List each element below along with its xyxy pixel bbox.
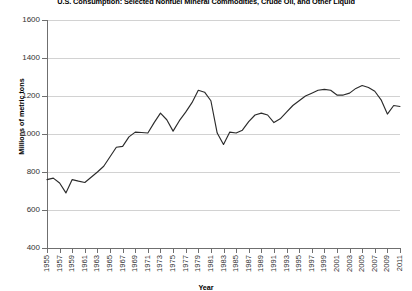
- y-axis-tick: [42, 172, 48, 173]
- x-axis-tick-label: 2003: [346, 255, 353, 272]
- consumption-line-series: [47, 20, 400, 248]
- y-axis-tick-label: 400: [6, 244, 40, 252]
- x-axis-tick-label: 1987: [245, 255, 252, 272]
- x-axis-tick-label: 1983: [220, 255, 227, 272]
- x-axis-tick-label: 1985: [232, 255, 239, 272]
- y-axis-tick: [42, 58, 48, 59]
- x-axis-tick-label: 1993: [283, 255, 290, 272]
- x-axis-tick: [47, 249, 48, 253]
- x-axis-tick-label: 1973: [156, 255, 163, 272]
- x-axis-tick-label: 2009: [383, 255, 390, 272]
- x-axis-tick: [173, 249, 174, 253]
- x-axis-tick-label: 2011: [396, 255, 403, 271]
- x-axis-tick: [350, 249, 351, 253]
- x-axis-tick-label: 1991: [270, 255, 277, 272]
- y-axis-tick: [42, 210, 48, 211]
- x-axis-tick-label: 1965: [106, 255, 113, 272]
- x-axis-tick-label: 1967: [119, 255, 126, 272]
- x-axis-tick-label: 2001: [333, 255, 340, 272]
- x-axis-tick: [97, 249, 98, 253]
- x-axis-tick: [375, 249, 376, 253]
- x-axis-tick: [362, 249, 363, 253]
- y-axis-tick-label: 600: [6, 206, 40, 214]
- x-axis-tick-label: 1989: [257, 255, 264, 272]
- x-axis-tick: [387, 249, 388, 253]
- x-axis-tick: [211, 249, 212, 253]
- x-axis-tick: [198, 249, 199, 253]
- x-axis-tick: [186, 249, 187, 253]
- x-axis-tick: [287, 249, 288, 253]
- x-axis-tick-label: 1963: [93, 255, 100, 272]
- x-axis-tick: [224, 249, 225, 253]
- x-axis-tick: [135, 249, 136, 253]
- x-axis-tick: [85, 249, 86, 253]
- x-axis-tick-label: 1979: [194, 255, 201, 272]
- x-axis-tick: [261, 249, 262, 253]
- chart-title: U.S. Consumption: Selected Nonfuel Miner…: [0, 0, 412, 6]
- x-axis-tick: [249, 249, 250, 253]
- x-axis-tick: [160, 249, 161, 253]
- x-axis-tick: [274, 249, 275, 253]
- x-axis-tick: [60, 249, 61, 253]
- y-axis-tick: [42, 134, 48, 135]
- chart-container: U.S. Consumption: Selected Nonfuel Miner…: [0, 0, 412, 291]
- plot-area: [47, 20, 400, 248]
- series-polyline: [47, 86, 400, 193]
- x-axis-tick-label: 1957: [56, 255, 63, 272]
- x-axis-tick: [299, 249, 300, 253]
- x-axis-tick-label: 2007: [371, 255, 378, 272]
- x-axis-title: Year: [0, 283, 412, 291]
- x-axis-tick: [110, 249, 111, 253]
- x-axis-tick-label: 1955: [43, 255, 50, 272]
- y-axis-tick-label: 1600: [6, 16, 40, 24]
- x-axis-tick-label: 1997: [308, 255, 315, 272]
- x-axis-tick-label: 1959: [68, 255, 75, 272]
- x-axis-tick: [312, 249, 313, 253]
- x-axis-tick-label: 1971: [144, 255, 151, 272]
- x-axis-tick-label: 1999: [320, 255, 327, 272]
- x-axis-tick: [123, 249, 124, 253]
- x-axis-tick-label: 1981: [207, 255, 214, 272]
- y-axis-tick: [42, 96, 48, 97]
- x-axis-tick-label: 1977: [182, 255, 189, 272]
- x-axis-tick: [400, 249, 401, 253]
- x-axis-tick-label: 1975: [169, 255, 176, 272]
- x-axis-tick: [324, 249, 325, 253]
- x-axis-tick: [148, 249, 149, 253]
- x-axis-tick: [337, 249, 338, 253]
- x-axis-tick: [236, 249, 237, 253]
- x-axis-tick-label: 1969: [131, 255, 138, 272]
- x-axis-tick-label: 1995: [295, 255, 302, 272]
- x-axis-tick-label: 1961: [81, 255, 88, 272]
- y-axis-tick: [42, 20, 48, 21]
- x-axis-tick: [72, 249, 73, 253]
- x-axis-tick-label: 2005: [358, 255, 365, 272]
- y-axis-title: Millions of metric tons: [17, 47, 26, 187]
